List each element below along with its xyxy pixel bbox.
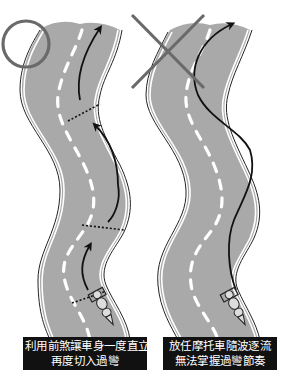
winding-road-comparison-diagram: 利用前煞讓車身一度直立 再度切入過彎 放任摩托車隨波逐流 無法掌握過彎節奏 xyxy=(0,0,285,371)
right-caption-line-2: 無法掌握過彎節奏 xyxy=(165,354,275,369)
right-caption-box: 放任摩托車隨波逐流 無法掌握過彎節奏 xyxy=(163,337,277,370)
left-caption-line-2: 再度切入過彎 xyxy=(25,354,145,369)
right-road-surface xyxy=(148,23,258,340)
left-caption-line-1: 利用前煞讓車身一度直立 xyxy=(25,339,145,354)
left-road xyxy=(20,22,130,340)
diagram-canvas xyxy=(0,0,285,371)
left-caption-box: 利用前煞讓車身一度直立 再度切入過彎 xyxy=(23,337,147,370)
right-road xyxy=(146,23,260,340)
right-caption-line-1: 放任摩托車隨波逐流 xyxy=(165,339,275,354)
